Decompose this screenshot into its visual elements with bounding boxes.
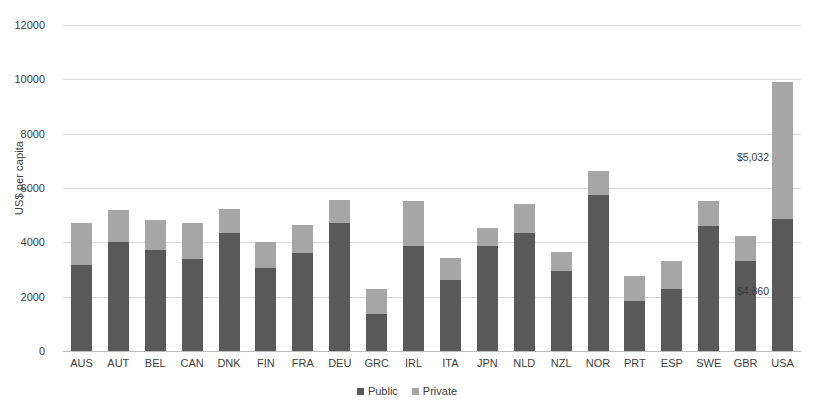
bar-segment-private[interactable]: [71, 223, 92, 265]
bar-segment-private[interactable]: [588, 171, 609, 196]
y-tick-label: 8000: [0, 128, 45, 140]
bar-segment-public[interactable]: [477, 246, 498, 351]
x-tick-label: SWE: [696, 357, 721, 369]
bar-group[interactable]: [71, 25, 92, 351]
bar-group[interactable]: [219, 25, 240, 351]
bar-group[interactable]: [108, 25, 129, 351]
bar-segment-private[interactable]: [551, 252, 572, 271]
bar-group[interactable]: [735, 25, 756, 351]
x-tick-label: CAN: [181, 357, 204, 369]
bar-group[interactable]: [366, 25, 387, 351]
bar-segment-private[interactable]: [145, 220, 166, 250]
bar-segment-private[interactable]: [292, 225, 313, 253]
bar-stack: [145, 220, 166, 351]
x-tick-label: JPN: [477, 357, 498, 369]
legend-label: Public: [368, 385, 398, 397]
gridline: [63, 351, 801, 352]
bar-stack: [108, 210, 129, 351]
y-tick-label: 12000: [0, 19, 45, 31]
bar-segment-private[interactable]: [366, 289, 387, 313]
bar-stack: [514, 204, 535, 351]
bar-segment-private[interactable]: [772, 82, 793, 219]
bar-group[interactable]: [477, 25, 498, 351]
y-tick-label: 4000: [0, 236, 45, 248]
bar-group[interactable]: [514, 25, 535, 351]
bar-segment-private[interactable]: [255, 242, 276, 268]
x-tick-label: IRL: [405, 357, 422, 369]
x-tick-label: FRA: [292, 357, 314, 369]
bar-segment-public[interactable]: [514, 233, 535, 351]
bar-segment-public[interactable]: [329, 223, 350, 351]
bar-stack: [698, 201, 719, 351]
bar-group[interactable]: [292, 25, 313, 351]
y-tick-label: 0: [0, 345, 45, 357]
x-tick-label: BEL: [145, 357, 166, 369]
bar-segment-public[interactable]: [366, 314, 387, 351]
x-tick-label: NZL: [551, 357, 572, 369]
bar-group[interactable]: [255, 25, 276, 351]
bar-segment-public[interactable]: [145, 250, 166, 351]
x-axis-tick-labels: AUSAUTBELCANDNKFINFRADEUGRCIRLITAJPNNLDN…: [63, 353, 801, 375]
chart-legend: PublicPrivate: [0, 385, 814, 397]
bar-segment-public[interactable]: [588, 195, 609, 351]
x-tick-label: GBR: [734, 357, 758, 369]
bar-segment-public[interactable]: [735, 261, 756, 351]
bar-stack: [329, 200, 350, 351]
bar-segment-public[interactable]: [661, 289, 682, 351]
bar-segment-public[interactable]: [551, 271, 572, 351]
x-tick-label: NLD: [513, 357, 535, 369]
bar-group[interactable]: [551, 25, 572, 351]
bar-group[interactable]: $4,860$5,032: [772, 25, 793, 351]
legend-swatch-icon: [357, 388, 364, 395]
bar-group[interactable]: [588, 25, 609, 351]
bar-group[interactable]: [145, 25, 166, 351]
bar-segment-public[interactable]: [772, 219, 793, 351]
x-tick-label: ITA: [442, 357, 458, 369]
bar-segment-private[interactable]: [661, 261, 682, 290]
bar-segment-public[interactable]: [440, 280, 461, 351]
y-tick-label: 2000: [0, 291, 45, 303]
bar-segment-private[interactable]: [624, 276, 645, 301]
x-tick-label: ESP: [661, 357, 683, 369]
bar-segment-public[interactable]: [624, 301, 645, 351]
bar-group[interactable]: [661, 25, 682, 351]
bar-stack: [477, 228, 498, 351]
legend-item[interactable]: Private: [412, 385, 457, 397]
bar-segment-private[interactable]: [514, 204, 535, 233]
bar-stack: [255, 242, 276, 351]
bar-segment-private[interactable]: [440, 258, 461, 281]
plot-area: 020004000600080001000012000 $4,860$5,032: [63, 25, 801, 351]
legend-label: Private: [423, 385, 457, 397]
bar-segment-public[interactable]: [255, 268, 276, 351]
y-tick-label: 6000: [0, 182, 45, 194]
bar-segment-private[interactable]: [219, 209, 240, 233]
x-tick-label: PRT: [624, 357, 646, 369]
bar-segment-private[interactable]: [329, 200, 350, 223]
bar-segment-public[interactable]: [698, 226, 719, 352]
bar-segment-public[interactable]: [71, 265, 92, 351]
bar-segment-public[interactable]: [108, 242, 129, 351]
bar-group[interactable]: [624, 25, 645, 351]
bar-stack: [403, 201, 424, 351]
legend-item[interactable]: Public: [357, 385, 398, 397]
bar-segment-public[interactable]: [292, 253, 313, 351]
bar-group[interactable]: [182, 25, 203, 351]
bar-stack: [219, 209, 240, 351]
bar-stack: [292, 225, 313, 351]
bar-group[interactable]: [403, 25, 424, 351]
bar-segment-private[interactable]: [182, 223, 203, 259]
bar-stack: [661, 261, 682, 351]
bar-group[interactable]: [440, 25, 461, 351]
bar-stack: [588, 171, 609, 351]
bar-segment-private[interactable]: [403, 201, 424, 247]
bar-segment-private[interactable]: [108, 210, 129, 242]
bar-segment-private[interactable]: [477, 228, 498, 245]
bar-segment-public[interactable]: [182, 259, 203, 351]
bar-segment-public[interactable]: [403, 246, 424, 351]
bar-segment-private[interactable]: [698, 201, 719, 225]
bar-group[interactable]: [698, 25, 719, 351]
bar-segment-private[interactable]: [735, 236, 756, 260]
bar-segment-public[interactable]: [219, 233, 240, 351]
bar-stack: [772, 82, 793, 351]
bar-group[interactable]: [329, 25, 350, 351]
